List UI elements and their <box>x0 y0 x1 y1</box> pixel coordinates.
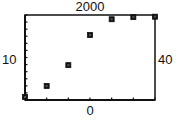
data-point-center <box>132 16 134 18</box>
plot-area <box>0 0 179 120</box>
xmax-label: 40 <box>158 53 178 66</box>
data-point-center <box>67 64 69 66</box>
data-point-center <box>111 18 113 20</box>
ymax-label: 2000 <box>70 0 110 13</box>
xmin-label: 10 <box>2 53 22 66</box>
data-point-center <box>154 16 156 18</box>
scatter-chart: 2000 0 10 40 <box>0 0 179 120</box>
data-point-center <box>24 96 26 98</box>
data-point-center <box>89 34 91 36</box>
data-point-center <box>46 85 48 87</box>
ymin-label: 0 <box>80 104 100 117</box>
